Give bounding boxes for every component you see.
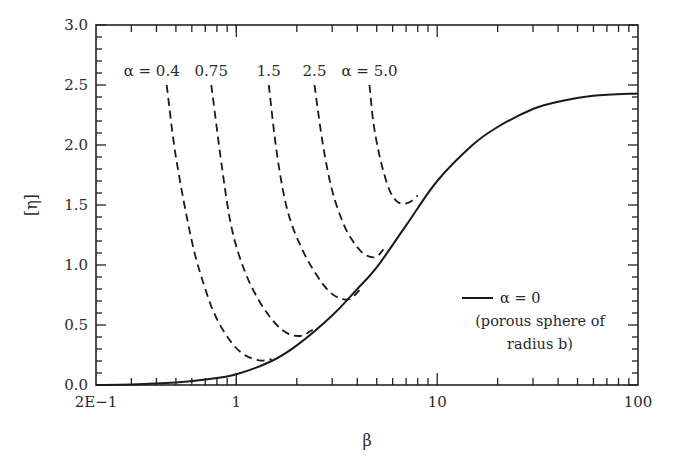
x-tick-label: 1 [232, 393, 242, 411]
x-axis-label: β [362, 431, 371, 450]
curve-label-alpha-0-75: 0.75 [195, 62, 228, 80]
curve-label-alpha-1-5: 1.5 [257, 62, 281, 80]
series-line-alpha-1-5 [269, 85, 360, 300]
x-tick-label: 2E−1 [75, 393, 118, 411]
y-tick-label: 1.0 [64, 256, 88, 274]
y-tick-label: 1.5 [64, 196, 88, 214]
legend-line1: α = 0 [500, 290, 540, 306]
legend-line2: (porous sphere of [475, 313, 606, 329]
series-line-alpha-0-75 [211, 85, 312, 336]
y-tick-label: 2.5 [64, 76, 88, 94]
y-tick-label: 0.5 [64, 316, 88, 334]
x-tick-label: 10 [428, 393, 447, 411]
legend: α = 0 (porous sphere of radius b) [462, 290, 606, 352]
curve-label-alpha-0-4: α = 0.4 [124, 62, 180, 80]
legend-line3: radius b) [507, 336, 573, 352]
curve-annotations: α = 0.40.751.52.5α = 5.0 [124, 62, 398, 80]
curve-label-alpha-5-0: α = 5.0 [341, 62, 397, 80]
series-line-alpha-5-0 [370, 85, 418, 204]
x-tick-label: 100 [624, 393, 653, 411]
y-tick-label: 2.0 [64, 136, 88, 154]
y-tick-label: 0.0 [64, 376, 88, 394]
series-line-alpha-0-4 [167, 85, 272, 361]
series-line-alpha-2-5 [315, 85, 384, 257]
curve-label-alpha-2-5: 2.5 [303, 62, 327, 80]
y-tick-label: 3.0 [64, 16, 88, 34]
chart: 0.00.51.01.52.02.53.02E−1110100 α = 0.40… [0, 0, 676, 466]
y-axis-label: [η] [22, 194, 41, 216]
